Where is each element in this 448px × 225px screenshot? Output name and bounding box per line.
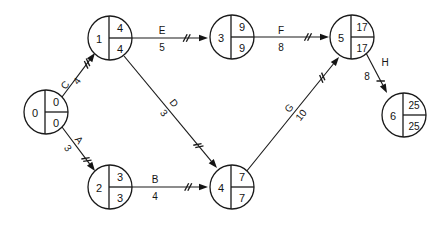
edge-activity-label: F bbox=[278, 25, 284, 36]
node-event-3[interactable]: 399 bbox=[210, 15, 254, 59]
node-latest-time: 4 bbox=[117, 43, 123, 55]
node-event-1[interactable]: 144 bbox=[88, 16, 132, 60]
edge-activity-label: D bbox=[167, 97, 180, 110]
node-latest-time: 17 bbox=[356, 43, 368, 54]
network-diagram-svg: C4A3E5F8D3B4G10H8 0001442333994775171762… bbox=[0, 0, 448, 225]
arrow-head-icon bbox=[199, 184, 208, 191]
node-latest-time: 25 bbox=[408, 121, 420, 132]
nodes-layer: 0001442333994775171762525 bbox=[24, 15, 426, 209]
arrow-head-icon bbox=[380, 83, 387, 93]
edge-activity-label: C bbox=[58, 79, 71, 91]
node-event-number: 2 bbox=[96, 182, 102, 194]
edge-activity-c: C4 bbox=[58, 53, 95, 97]
node-earliest-time: 9 bbox=[239, 21, 245, 33]
edge-activity-f: F8 bbox=[254, 25, 329, 53]
node-event-2[interactable]: 233 bbox=[88, 165, 132, 209]
node-earliest-time: 17 bbox=[356, 22, 368, 33]
edge-activity-g: G10 bbox=[246, 57, 339, 172]
node-latest-time: 0 bbox=[53, 117, 59, 129]
node-event-0[interactable]: 000 bbox=[24, 90, 68, 134]
arrow-head-icon bbox=[87, 162, 95, 171]
arrow-head-icon bbox=[87, 53, 95, 62]
edge-duration-label: 8 bbox=[364, 71, 370, 82]
node-event-number: 0 bbox=[32, 107, 38, 119]
arrow-head-icon bbox=[320, 34, 329, 41]
edge-duration-label: 8 bbox=[278, 42, 284, 53]
node-earliest-time: 25 bbox=[408, 100, 420, 111]
edge-activity-b: B4 bbox=[132, 174, 208, 202]
edge-duration-label: 4 bbox=[152, 191, 158, 202]
node-event-number: 6 bbox=[390, 110, 396, 122]
node-event-number: 5 bbox=[338, 32, 344, 44]
node-latest-time: 3 bbox=[117, 192, 123, 204]
node-earliest-time: 3 bbox=[117, 171, 123, 183]
arrow-head-icon bbox=[331, 57, 339, 66]
node-event-number: 4 bbox=[218, 182, 224, 194]
network-diagram-canvas: C4A3E5F8D3B4G10H8 0001442333994775171762… bbox=[0, 0, 448, 225]
edge-activity-label: B bbox=[152, 174, 159, 185]
edge-duration-label: 3 bbox=[62, 142, 74, 154]
node-event-4[interactable]: 477 bbox=[210, 165, 254, 209]
edge-activity-d: D3 bbox=[124, 56, 217, 168]
node-event-number: 1 bbox=[96, 33, 102, 45]
edge-activity-h: H8 bbox=[364, 53, 388, 93]
edge-line bbox=[246, 64, 333, 172]
edge-activity-a: A3 bbox=[62, 127, 95, 171]
node-earliest-time: 4 bbox=[117, 22, 123, 34]
node-event-5[interactable]: 51717 bbox=[330, 15, 374, 59]
node-event-number: 3 bbox=[218, 32, 224, 44]
arrow-head-icon bbox=[199, 35, 208, 42]
edge-duration-label: 3 bbox=[158, 107, 170, 119]
node-event-6[interactable]: 62525 bbox=[382, 93, 426, 137]
edge-activity-e: E5 bbox=[132, 25, 208, 53]
edge-duration-label: 10 bbox=[293, 107, 309, 123]
node-earliest-time: 7 bbox=[239, 171, 245, 183]
edge-activity-label: E bbox=[159, 25, 166, 36]
node-latest-time: 7 bbox=[239, 192, 245, 204]
edge-duration-label: 5 bbox=[159, 42, 165, 53]
node-latest-time: 9 bbox=[239, 42, 245, 54]
edge-activity-label: H bbox=[381, 57, 388, 68]
node-earliest-time: 0 bbox=[53, 96, 59, 108]
